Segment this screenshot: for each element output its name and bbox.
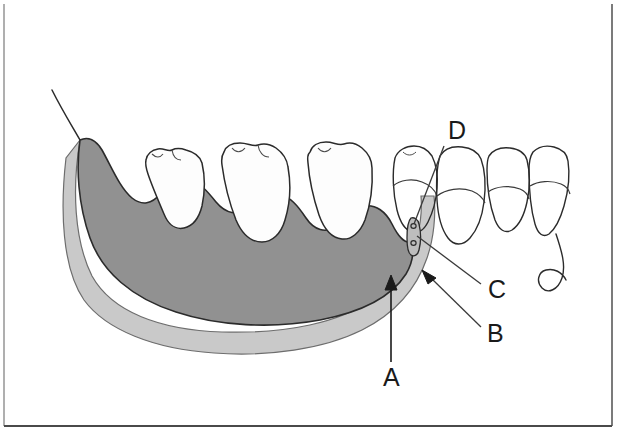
label-c: C bbox=[488, 275, 506, 303]
mandible-diagram: A B C D bbox=[0, 0, 618, 441]
figure-root: A B C D bbox=[0, 0, 618, 441]
label-b: B bbox=[487, 319, 504, 347]
label-a: A bbox=[383, 363, 400, 391]
label-d: D bbox=[448, 116, 466, 144]
